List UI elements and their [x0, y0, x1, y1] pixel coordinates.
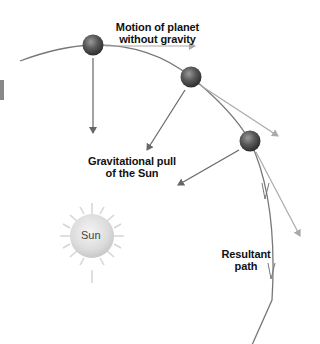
planet-3: [240, 131, 261, 152]
planet-2: [181, 67, 202, 88]
tangent-arrow-2: [200, 85, 278, 136]
gravitational-pull-label: Gravitational pull of the Sun: [82, 155, 182, 179]
label-line: Gravitational pull: [82, 155, 182, 167]
sun-label: Sun: [81, 229, 101, 241]
gravity-arrow-3: [178, 150, 239, 185]
tangent-arrow-3: [256, 152, 300, 236]
label-line: Motion of planet: [110, 21, 205, 33]
gravity-arrow-2: [147, 90, 185, 150]
planet-1: [83, 35, 104, 56]
resultant-path-label: Resultant path: [218, 248, 274, 272]
motion-without-gravity-label: Motion of planet without gravity: [110, 21, 205, 45]
label-line: of the Sun: [82, 167, 182, 179]
label-line: without gravity: [110, 33, 205, 45]
label-line: path: [218, 260, 274, 272]
label-line: Resultant: [218, 248, 274, 260]
sun-icon: [60, 203, 124, 283]
orbit-path: [20, 45, 273, 344]
